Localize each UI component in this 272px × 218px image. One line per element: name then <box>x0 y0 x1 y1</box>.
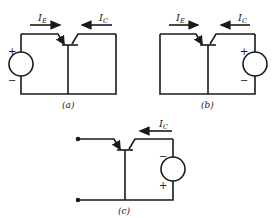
circuit-panel-a <box>9 25 116 94</box>
emitter-current-label: IE <box>37 12 47 25</box>
caption-b: (b) <box>201 100 214 110</box>
caption-c: (c) <box>118 206 131 216</box>
source-minus-sign: − <box>159 151 167 162</box>
terminal-dot-top <box>76 137 81 142</box>
source-plus-sign: + <box>8 46 16 57</box>
source-plus-sign: + <box>159 180 167 191</box>
source-plus-sign: + <box>240 46 248 57</box>
collector-current-label: IC <box>237 12 247 25</box>
circuit-panel-b <box>160 25 267 94</box>
terminal-dot-bottom <box>76 198 81 203</box>
circuit-panel-c <box>76 131 185 202</box>
source-minus-sign: − <box>8 75 16 86</box>
caption-a: (a) <box>62 100 75 110</box>
source-minus-sign: − <box>240 75 248 86</box>
collector-current-label: IC <box>158 118 168 131</box>
pnp-transistor-symbol <box>21 34 116 94</box>
emitter-current-label: IE <box>175 12 185 25</box>
transistor-circuit-figure: IE IC + − (a) IE IC + − (b) I <box>0 0 272 218</box>
collector-current-label: IC <box>98 12 108 25</box>
